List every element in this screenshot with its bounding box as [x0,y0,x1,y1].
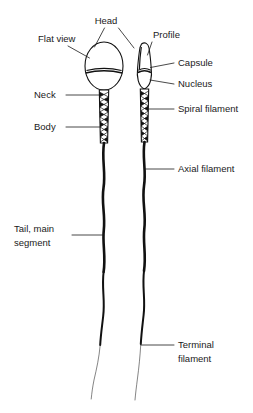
profile-neck-body [140,89,148,142]
profile-terminal-filament [135,344,141,400]
diagram-canvas: Head Flat view Profile Capsule Nucleus S… [0,0,253,413]
label-capsule: Capsule [178,57,213,68]
label-spiral-filament: Spiral filament [178,103,239,114]
label-nucleus: Nucleus [178,78,213,89]
sperm-anatomy-diagram: Head Flat view Profile Capsule Nucleus S… [0,0,253,413]
label-flat-view: Flat view [38,33,76,44]
flat-head-outline [85,42,123,90]
sperm-flat-view [85,42,123,399]
label-body: Body [34,121,56,132]
label-neck: Neck [34,89,56,100]
label-terminal-filament-line1: Terminal [178,339,214,350]
leader-head-right [119,28,135,48]
sperm-profile-view [135,43,152,400]
profile-tail-main [143,142,144,271]
flat-tail-main [103,143,105,272]
profile-tail-main-lower [141,271,144,344]
label-tail-main-segment-line1: Tail, main [14,223,54,234]
label-axial-filament: Axial filament [178,163,235,174]
leader-capsule [151,63,175,68]
leader-nucleus [150,80,174,84]
labels-group: Head Flat view Profile Capsule Nucleus S… [14,15,239,364]
leader-flat-view [68,46,90,58]
flat-tail-main-lower [100,272,104,345]
flat-neck-body [99,90,108,143]
flat-terminal-filament [91,345,100,399]
label-tail-main-segment-line2: segment [14,237,51,248]
label-terminal-filament-line2: filament [178,353,212,364]
label-head: Head [95,15,118,26]
label-profile: Profile [153,29,180,40]
